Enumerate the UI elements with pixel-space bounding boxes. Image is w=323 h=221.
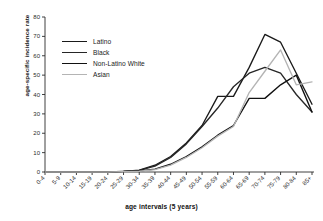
- legend-item-non-latino-white[interactable]: Non-Latino White: [62, 58, 145, 69]
- y-tick-label: 0: [37, 169, 41, 175]
- legend-label-latino: Latino: [93, 38, 111, 45]
- x-tick-label: 25-29: [109, 175, 125, 191]
- x-tick-label: 45-49: [172, 175, 188, 191]
- y-tick-label: 80: [33, 14, 40, 20]
- y-tick-label: 50: [33, 72, 40, 78]
- x-axis-tick-labels: 0-45-910-1415-1920-2425-2930-3435-3940-4…: [35, 174, 313, 190]
- legend-item-asian[interactable]: Asian: [62, 69, 145, 80]
- x-tick-label: 20-24: [93, 175, 109, 191]
- y-tick-label: 40: [33, 92, 40, 98]
- legend-swatch-asian: [62, 74, 87, 75]
- legend: Latino Black Non-Latino White Asian: [62, 36, 145, 80]
- legend-swatch-black: [62, 52, 87, 53]
- y-tick-label: 20: [33, 130, 40, 136]
- series-line-black: [45, 67, 312, 172]
- x-tick-label: 70-74: [250, 175, 266, 191]
- x-tick-label: 40-44: [156, 175, 172, 191]
- y-tick-label: 60: [33, 53, 40, 59]
- y-axis-ticks: 01020304050607080: [33, 14, 45, 175]
- x-tick-label: 15-19: [78, 175, 94, 191]
- legend-swatch-latino: [62, 41, 87, 42]
- x-tick-label: 35-39: [141, 175, 157, 191]
- chart-container: age-specific incidence rate age interval…: [0, 0, 323, 221]
- x-tick-label: 75-79: [266, 175, 282, 191]
- x-tick-label: 85+: [301, 175, 313, 187]
- y-tick-label: 70: [33, 33, 40, 39]
- legend-label-black: Black: [93, 49, 109, 56]
- legend-item-latino[interactable]: Latino: [62, 36, 145, 47]
- y-tick-label: 10: [33, 150, 40, 156]
- x-tick-label: 65-69: [235, 175, 251, 191]
- series-line-non-latino-white: [45, 75, 312, 172]
- x-tick-label: 5-9: [51, 174, 62, 185]
- legend-swatch-non-latino-white: [62, 63, 87, 64]
- legend-label-asian: Asian: [93, 71, 110, 78]
- x-tick-label: 30-34: [125, 175, 141, 191]
- x-tick-label: 10-14: [62, 175, 78, 191]
- x-tick-label: 55-59: [203, 175, 219, 191]
- x-tick-label: 80-84: [282, 175, 298, 191]
- line-chart-plot: 01020304050607080 0-45-910-1415-1920-242…: [0, 0, 323, 221]
- legend-item-black[interactable]: Black: [62, 47, 145, 58]
- legend-label-non-latino-white: Non-Latino White: [93, 60, 145, 67]
- y-tick-label: 30: [33, 111, 40, 117]
- x-tick-label: 60-64: [219, 175, 235, 191]
- x-tick-label: 50-54: [188, 175, 204, 191]
- x-tick-label: 0-4: [35, 174, 46, 185]
